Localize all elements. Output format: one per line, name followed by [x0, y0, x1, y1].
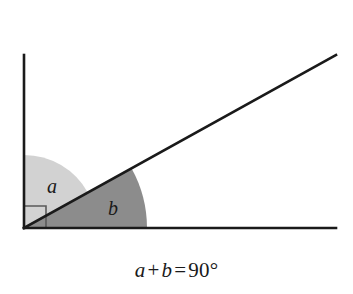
- diagram-background: [0, 0, 353, 294]
- caption-equals-operator: =: [172, 258, 188, 282]
- figure-root: a b a+b=90°: [0, 0, 353, 294]
- degree-symbol-icon: °: [210, 258, 219, 282]
- angle-diagram: a b: [0, 0, 353, 294]
- caption-var-b: b: [161, 258, 172, 282]
- angle-b-label: b: [108, 197, 118, 219]
- caption-value: 90: [188, 258, 209, 282]
- caption: a+b=90°: [0, 258, 353, 283]
- caption-plus-operator: +: [145, 258, 161, 282]
- angle-a-label: a: [47, 175, 57, 197]
- caption-var-a: a: [135, 258, 146, 282]
